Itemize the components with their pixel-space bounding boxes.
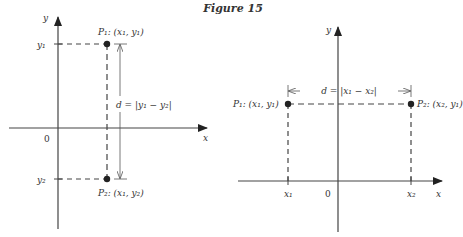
right-origin-label: 0: [325, 189, 331, 199]
right-x-axis-label: x: [436, 189, 441, 199]
figure-title: Figure 15: [202, 2, 263, 15]
left-point-p1: [104, 41, 110, 47]
figure-canvas: Figure 15 y x 0 y₁ y₂ P₁: (x₁, y₁) P₂: (…: [0, 0, 463, 237]
right-tick-x2-label: x₂: [407, 189, 416, 199]
right-point-p2: [408, 101, 414, 107]
right-panel: y x 0 x₁ x₂ P₁: (x₁, y₁) P₂: (x₂, y₁) d …: [232, 25, 463, 232]
right-tick-x1-label: x₁: [284, 189, 293, 199]
left-panel: y x 0 y₁ y₂ P₁: (x₁, y₁) P₂: (x₁, y₂) d …: [9, 13, 208, 229]
left-distance-label: d = |y₁ − y₂|: [116, 100, 172, 111]
left-point-p2: [104, 176, 110, 182]
right-point-p1-label: P₁: (x₁, y₁): [232, 99, 279, 109]
right-y-axis-label: y: [325, 25, 332, 35]
left-origin-label: 0: [44, 134, 50, 144]
right-point-p1: [285, 101, 291, 107]
left-y-axis-label: y: [42, 13, 49, 23]
left-tick-y1-label: y₁: [36, 40, 46, 50]
right-point-p2-label: P₂: (x₂, y₁): [416, 99, 463, 109]
left-point-p2-label: P₂: (x₁, y₂): [97, 188, 144, 198]
right-distance-label: d = |x₁ − x₂|: [321, 86, 377, 97]
left-tick-y2-label: y₂: [36, 175, 46, 185]
left-x-axis-label: x: [203, 133, 208, 143]
left-point-p1-label: P₁: (x₁, y₁): [97, 27, 144, 37]
